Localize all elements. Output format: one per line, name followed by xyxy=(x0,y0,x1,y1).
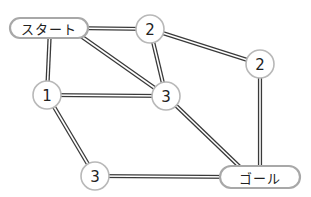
edge-n2a-n2b xyxy=(150,29,260,64)
node-label: ゴール xyxy=(239,171,281,186)
node-label: スタート xyxy=(21,22,77,37)
node-label: 1 xyxy=(42,87,52,105)
weight-node-n3b: 3 xyxy=(81,162,109,190)
edge-line-gap xyxy=(166,96,242,169)
weight-node-n1: 1 xyxy=(33,81,61,109)
edge-n3b-goal xyxy=(95,176,240,177)
weight-node-n3a: 3 xyxy=(152,82,180,110)
node-label: 2 xyxy=(145,21,155,39)
terminal-node-goal: ゴール xyxy=(220,166,300,188)
weight-node-n2b: 2 xyxy=(246,50,274,78)
edge-line-gap xyxy=(95,176,240,177)
node-label: 3 xyxy=(161,88,171,106)
edge-n1-n3a xyxy=(47,95,166,96)
node-label: 2 xyxy=(255,56,265,74)
edge-line-gap xyxy=(47,95,166,96)
graph-canvas: スタート22133ゴール xyxy=(0,0,311,197)
graph-diagram: スタート22133ゴール xyxy=(0,0,311,197)
weight-node-n2a: 2 xyxy=(136,15,164,43)
edge-n3a-goal xyxy=(166,96,242,169)
nodes-layer: スタート22133ゴール xyxy=(10,15,300,190)
edge-line-gap xyxy=(150,29,260,64)
terminal-node-start: スタート xyxy=(10,18,88,38)
node-label: 3 xyxy=(90,168,100,186)
